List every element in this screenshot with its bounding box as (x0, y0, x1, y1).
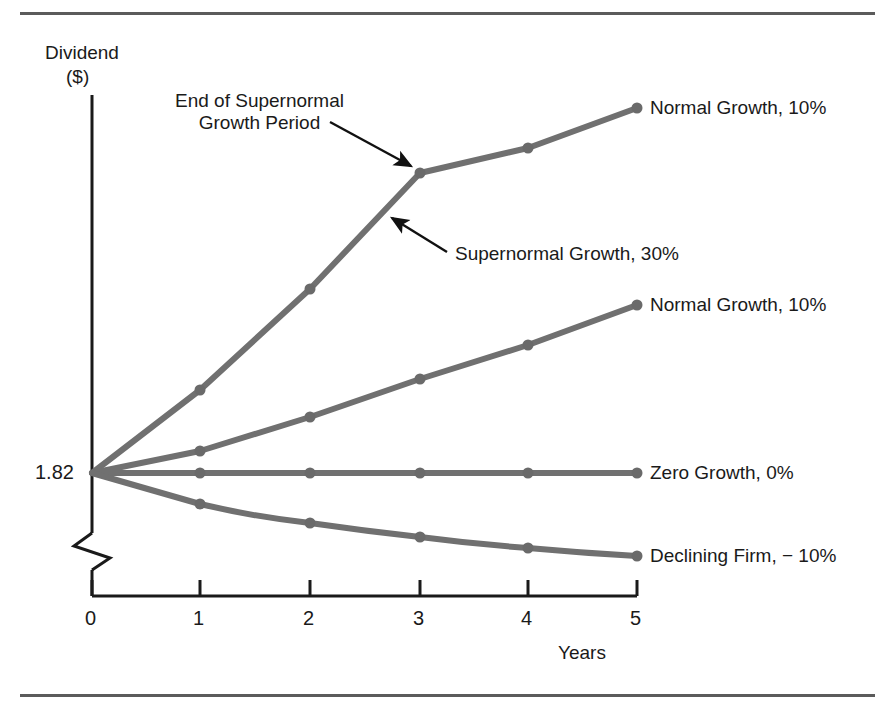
annotation-end-of-supernormal: End of Supernormal Growth Period (175, 90, 344, 135)
y-axis-title-line2: ($) (66, 66, 89, 88)
data-point (632, 103, 643, 114)
x-tick-label-4: 4 (521, 607, 532, 631)
annotation-supernormal-growth: Supernormal Growth, 30% (455, 243, 679, 265)
figure-container: Dividend ($) 1.82 0 1 2 3 4 5 Years End … (0, 0, 894, 716)
annotation-end-of-supernormal-line1: End of Supernormal (175, 90, 344, 112)
x-axis-title: Years (558, 642, 606, 664)
data-point (632, 468, 643, 479)
data-point (415, 532, 426, 543)
x-tick-label-3: 3 (413, 607, 424, 631)
data-point (305, 518, 316, 529)
data-point (415, 374, 426, 385)
x-tick-label-2: 2 (303, 607, 314, 631)
data-point (523, 543, 534, 554)
data-point (195, 446, 206, 457)
series-label-zero-growth: Zero Growth, 0% (650, 462, 794, 484)
y-axis-break-icon (74, 533, 110, 570)
data-point (415, 468, 426, 479)
data-point (523, 468, 534, 479)
data-point (195, 468, 206, 479)
data-point (632, 300, 643, 311)
annotation-end-of-supernormal-line2: Growth Period (175, 112, 344, 134)
series-supernormal-growth (92, 103, 643, 474)
x-tick-label-5: 5 (630, 607, 641, 631)
series-declining-firm (92, 473, 643, 562)
y-axis-title-line1: Dividend (45, 42, 119, 64)
data-point (415, 168, 426, 179)
x-tick-label-1: 1 (193, 607, 204, 631)
series-zero-growth (92, 468, 643, 479)
data-point (632, 551, 643, 562)
x-axis (92, 580, 637, 596)
series-label-supernormal-normal-growth: Normal Growth, 10% (650, 97, 826, 119)
data-point (523, 340, 534, 351)
data-point (305, 412, 316, 423)
series-label-declining-firm: Declining Firm, − 10% (650, 545, 836, 567)
y-tick-label-base: 1.82 (35, 461, 74, 485)
data-point (523, 143, 534, 154)
x-tick-label-0: 0 (85, 607, 96, 631)
series-label-normal-growth: Normal Growth, 10% (650, 294, 826, 316)
data-point (305, 468, 316, 479)
series-normal-growth (92, 300, 643, 474)
supernormal-growth-arrow (392, 218, 447, 252)
data-point (195, 385, 206, 396)
data-point (305, 284, 316, 295)
y-axis (74, 95, 110, 596)
data-point (195, 499, 206, 510)
